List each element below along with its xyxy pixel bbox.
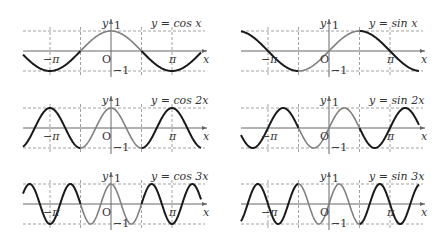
origin-label: O: [102, 206, 111, 219]
tick-label-minus-pi: −π: [43, 53, 60, 66]
graph-title: y = sin 2x: [368, 94, 425, 107]
tick-label-minus-1: −1: [331, 217, 347, 230]
tick-label-1: 1: [114, 96, 121, 109]
tick-label-pi: π: [168, 53, 177, 66]
tick-label-1: 1: [332, 96, 339, 109]
tick-label-1: 1: [114, 19, 121, 32]
y-axis-arrow-icon: [109, 19, 113, 24]
y-axis-label: y: [319, 17, 327, 30]
y-axis-label: y: [101, 94, 109, 107]
tick-label-1: 1: [332, 19, 339, 32]
graph-title: y = cos 3x: [150, 170, 209, 183]
graph-title: y = cos 2x: [150, 94, 209, 107]
tick-label-pi: π: [386, 206, 395, 219]
y-axis-label: y: [101, 170, 109, 183]
y-axis-arrow-icon: [109, 172, 113, 177]
tick-label-pi: π: [386, 130, 395, 143]
tick-label-1: 1: [332, 172, 339, 185]
origin-label: O: [102, 53, 111, 66]
tick-label-1: 1: [114, 172, 121, 185]
tick-label-minus-1: −1: [113, 64, 129, 77]
tick-label-minus-pi: −π: [261, 206, 278, 219]
tick-label-minus-1: −1: [113, 217, 129, 230]
x-axis-label: x: [203, 130, 210, 143]
origin-label: O: [320, 53, 329, 66]
graph-panel-cos1: y1−1O−ππxy = cos x: [23, 17, 210, 77]
trig-graphs-diagram: y1−1O−ππxy = cos xy1−1O−ππxy = sin xy1−1…: [0, 0, 438, 246]
y-axis-arrow-icon: [109, 96, 113, 101]
y-axis-label: y: [101, 17, 109, 30]
tick-label-pi: π: [168, 206, 177, 219]
tick-label-minus-1: −1: [113, 141, 129, 154]
graph-title: y = sin x: [368, 17, 418, 30]
x-axis-label: x: [421, 206, 428, 219]
graph-panel-sin2: y1−1O−ππxy = sin 2x: [241, 94, 428, 154]
graph-title: y = cos x: [150, 17, 202, 30]
x-axis-label: x: [203, 53, 210, 66]
origin-label: O: [320, 206, 329, 219]
origin-label: O: [102, 130, 111, 143]
y-axis-arrow-icon: [327, 96, 331, 101]
x-axis-label: x: [421, 53, 428, 66]
y-axis-arrow-icon: [327, 172, 331, 177]
graph-title: y = sin 3x: [368, 170, 425, 183]
tick-label-minus-1: −1: [331, 64, 347, 77]
graph-panel-sin3: y1−1O−ππxy = sin 3x: [241, 170, 428, 230]
tick-label-minus-1: −1: [331, 141, 347, 154]
x-axis-label: x: [421, 130, 428, 143]
y-axis-label: y: [319, 170, 327, 183]
graph-panel-cos3: y1−1O−ππxy = cos 3x: [23, 170, 210, 230]
y-axis-label: y: [319, 94, 327, 107]
graph-panel-cos2: y1−1O−ππxy = cos 2x: [23, 94, 210, 154]
y-axis-arrow-icon: [327, 19, 331, 24]
tick-label-pi: π: [168, 130, 177, 143]
x-axis-label: x: [203, 206, 210, 219]
tick-label-minus-pi: −π: [43, 130, 60, 143]
tick-label-minus-pi: −π: [43, 206, 60, 219]
tick-label-minus-pi: −π: [261, 130, 278, 143]
tick-label-pi: π: [386, 53, 395, 66]
origin-label: O: [320, 130, 329, 143]
graph-panel-sin1: y1−1O−ππxy = sin x: [241, 17, 428, 77]
tick-label-minus-pi: −π: [261, 53, 278, 66]
